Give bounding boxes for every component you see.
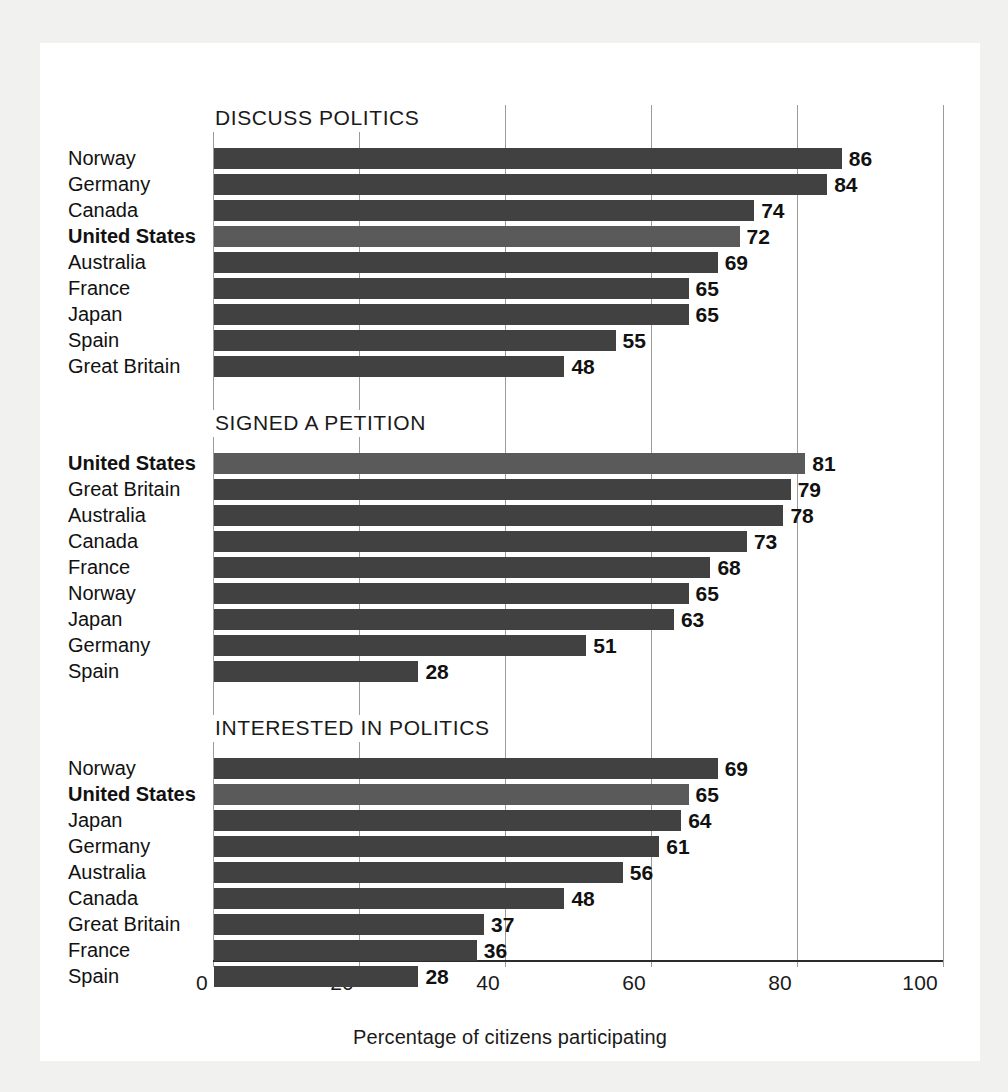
bar[interactable] <box>214 174 827 195</box>
bar[interactable] <box>214 661 418 682</box>
bar-row[interactable]: Spain28 <box>40 965 980 988</box>
bar-value-label: 79 <box>791 478 821 501</box>
bar-row[interactable]: Canada48 <box>40 887 980 910</box>
bar-value-label: 55 <box>616 329 646 352</box>
bar-row[interactable]: France36 <box>40 939 980 962</box>
bar[interactable] <box>214 278 689 299</box>
bar[interactable] <box>214 505 783 526</box>
country-label: Germany <box>68 634 206 657</box>
bar[interactable] <box>214 888 564 909</box>
bar-value-label: 68 <box>710 556 740 579</box>
bar-row[interactable]: United States72 <box>40 225 980 248</box>
bar-row[interactable]: Germany61 <box>40 835 980 858</box>
bar-row[interactable]: Spain55 <box>40 329 980 352</box>
country-label: Canada <box>68 199 206 222</box>
bar-row[interactable]: Japan63 <box>40 608 980 631</box>
bar[interactable] <box>214 836 659 857</box>
bar[interactable] <box>214 635 586 656</box>
bar[interactable] <box>214 356 564 377</box>
bar[interactable] <box>214 330 616 351</box>
bar-row[interactable]: France68 <box>40 556 980 579</box>
country-label: Germany <box>68 835 206 858</box>
country-label: France <box>68 556 206 579</box>
bar[interactable] <box>214 148 842 169</box>
country-label: Japan <box>68 809 206 832</box>
bar-value-label: 48 <box>564 355 594 378</box>
bar-value-label: 65 <box>689 303 719 326</box>
country-label: Japan <box>68 608 206 631</box>
country-label: Great Britain <box>68 913 206 936</box>
bar-row[interactable]: Spain28 <box>40 660 980 683</box>
bar-row[interactable]: Australia78 <box>40 504 980 527</box>
bar-value-label: 69 <box>718 757 748 780</box>
bar-row[interactable]: Canada73 <box>40 530 980 553</box>
bar-value-label: 48 <box>564 887 594 910</box>
panel-2: SIGNED A PETITIONUnited States81Great Br… <box>40 410 980 686</box>
bar[interactable] <box>214 609 674 630</box>
bar[interactable] <box>214 810 681 831</box>
bar-row[interactable]: Australia69 <box>40 251 980 274</box>
country-label: United States <box>68 783 206 806</box>
panel-1: DISCUSS POLITICSNorway86Germany84Canada7… <box>40 105 980 381</box>
bar-row[interactable]: Great Britain48 <box>40 355 980 378</box>
bar-row[interactable]: United States81 <box>40 452 980 475</box>
bar-row[interactable]: Australia56 <box>40 861 980 884</box>
bar-row[interactable]: Canada74 <box>40 199 980 222</box>
bar[interactable] <box>214 304 689 325</box>
bar[interactable] <box>214 252 718 273</box>
bar-value-label: 28 <box>418 660 448 683</box>
bar[interactable] <box>214 862 623 883</box>
bar[interactable] <box>214 583 689 604</box>
bar-row[interactable]: Germany84 <box>40 173 980 196</box>
country-label: Norway <box>68 147 206 170</box>
bar-row[interactable]: Great Britain37 <box>40 913 980 936</box>
bar[interactable] <box>214 966 418 987</box>
country-label: United States <box>68 225 206 248</box>
bar[interactable] <box>214 226 740 247</box>
bar-value-label: 36 <box>477 939 507 962</box>
bar-row[interactable]: Norway86 <box>40 147 980 170</box>
country-label: France <box>68 277 206 300</box>
bar-value-label: 65 <box>689 277 719 300</box>
bar-row[interactable]: Japan64 <box>40 809 980 832</box>
country-label: France <box>68 939 206 962</box>
bar-row[interactable]: United States65 <box>40 783 980 806</box>
country-label: Great Britain <box>68 478 206 501</box>
bar-value-label: 63 <box>674 608 704 631</box>
bar-value-label: 73 <box>747 530 777 553</box>
grouped-bar-chart: 020406080100 DISCUSS POLITICSNorway86Ger… <box>40 43 980 1061</box>
bar-row[interactable]: Great Britain79 <box>40 478 980 501</box>
bar-value-label: 51 <box>586 634 616 657</box>
country-label: Germany <box>68 173 206 196</box>
bar-row[interactable]: France65 <box>40 277 980 300</box>
country-label: United States <box>68 452 206 475</box>
country-label: Canada <box>68 887 206 910</box>
bar-value-label: 37 <box>484 913 514 936</box>
country-label: Norway <box>68 757 206 780</box>
bar-value-label: 74 <box>754 199 784 222</box>
bar-row[interactable]: Norway65 <box>40 582 980 605</box>
bar[interactable] <box>214 453 805 474</box>
bar-row[interactable]: Japan65 <box>40 303 980 326</box>
country-label: Great Britain <box>68 355 206 378</box>
bar-value-label: 86 <box>842 147 872 170</box>
bar-value-label: 81 <box>805 452 835 475</box>
panel-title: INTERESTED IN POLITICS <box>213 715 498 742</box>
bar[interactable] <box>214 200 754 221</box>
bar-row[interactable]: Germany51 <box>40 634 980 657</box>
panel-3: INTERESTED IN POLITICSNorway69United Sta… <box>40 715 980 991</box>
bar[interactable] <box>214 940 477 961</box>
bar[interactable] <box>214 758 718 779</box>
bar-value-label: 69 <box>718 251 748 274</box>
bar[interactable] <box>214 531 747 552</box>
bar-value-label: 72 <box>740 225 770 248</box>
bar[interactable] <box>214 557 710 578</box>
bar[interactable] <box>214 479 791 500</box>
bar-row[interactable]: Norway69 <box>40 757 980 780</box>
x-axis-caption: Percentage of citizens participating <box>40 1026 980 1049</box>
bar[interactable] <box>214 914 484 935</box>
bar-value-label: 56 <box>623 861 653 884</box>
panel-title: SIGNED A PETITION <box>213 410 434 437</box>
bar[interactable] <box>214 784 689 805</box>
chart-card: 020406080100 DISCUSS POLITICSNorway86Ger… <box>40 43 980 1061</box>
